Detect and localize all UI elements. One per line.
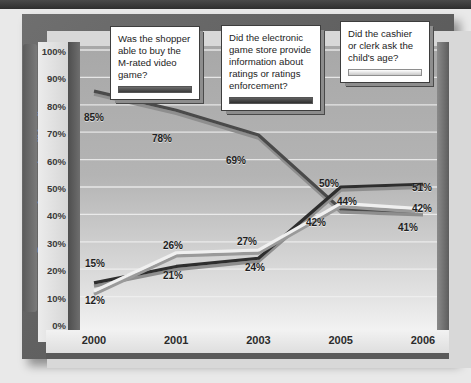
- callout-shopper-text: Was the shopper able to buy the M-rated …: [111, 27, 199, 83]
- plot-right-wall: [437, 42, 449, 342]
- series-depth-0: [94, 94, 423, 215]
- callout-cashier[interactable]: Did the cashier or clerk ask the child's…: [340, 21, 430, 83]
- x-axis-tick-label: 2001: [154, 334, 198, 346]
- series-line-2: [94, 203, 423, 291]
- chart-screenshot: Percent Answering "Yes" 100%90%80%70%60%…: [0, 0, 471, 383]
- x-axis-tick-label: 2000: [72, 334, 116, 346]
- y-axis-tick-label: 100%: [42, 46, 66, 57]
- y-axis-tick-column: 100%90%80%70%60%50%40%30%20%10%0%: [38, 42, 68, 342]
- y-axis-tick-label: 70%: [47, 128, 66, 139]
- x-axis-tick-label: 2006: [401, 334, 445, 346]
- data-label-44: 44%: [337, 196, 357, 207]
- x-axis-tick-label: 2005: [319, 334, 363, 346]
- callout-shopper[interactable]: Was the shopper able to buy the M-rated …: [110, 26, 200, 100]
- data-label-21: 21%: [163, 270, 183, 281]
- legend-swatch-store: [229, 97, 313, 104]
- data-label-15: 15%: [85, 258, 105, 269]
- y-axis-tick-label: 60%: [47, 156, 66, 167]
- y-axis-tick-label: 50%: [47, 183, 66, 194]
- data-label-50: 50%: [319, 178, 339, 189]
- y-axis-band: Percent Answering "Yes": [23, 44, 37, 312]
- x-axis-floor-edge: [46, 353, 449, 359]
- y-axis-tick-label: 90%: [47, 73, 66, 84]
- data-label-26: 26%: [163, 240, 183, 251]
- y-axis-tick-label: 40%: [47, 210, 66, 221]
- y-axis-tick-label: 10%: [47, 293, 66, 304]
- data-label-27: 27%: [237, 236, 257, 247]
- data-label-42a: 42%: [306, 217, 326, 228]
- data-label-24: 24%: [245, 262, 265, 273]
- data-label-41: 41%: [398, 222, 418, 233]
- legend-swatch-shopper: [118, 86, 192, 93]
- clipped-header-bar: [0, 0, 471, 9]
- data-label-42b: 42%: [412, 203, 432, 214]
- y-axis-tick-label: 30%: [47, 238, 66, 249]
- y-axis-tick-label: 80%: [47, 101, 66, 112]
- legend-swatch-cashier: [348, 69, 422, 76]
- plot-left-wall: [68, 42, 80, 342]
- data-label-69: 69%: [226, 155, 246, 166]
- x-axis-tick-label: 2003: [237, 334, 281, 346]
- data-label-12: 12%: [85, 295, 105, 306]
- data-label-78: 78%: [152, 133, 172, 144]
- data-label-51: 51%: [412, 182, 432, 193]
- callout-store[interactable]: Did the electronic game store provide in…: [221, 25, 321, 111]
- data-label-85: 85%: [84, 112, 104, 123]
- callout-store-text: Did the electronic game store provide in…: [222, 26, 320, 94]
- y-axis-tick-label: 20%: [47, 265, 66, 276]
- callout-cashier-text: Did the cashier or clerk ask the child's…: [341, 22, 429, 66]
